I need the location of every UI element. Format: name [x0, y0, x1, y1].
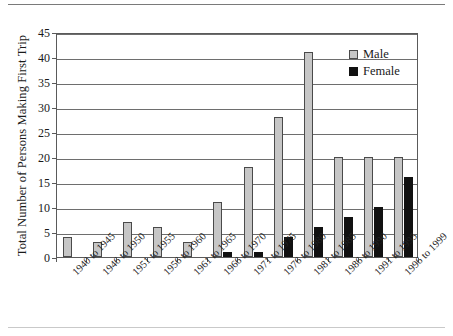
bar-female: [223, 252, 232, 257]
y-tick-label: 0: [20, 252, 50, 264]
bar-male: [63, 237, 72, 257]
x-tick-mark: [56, 258, 57, 262]
y-tick-label: 25: [20, 127, 50, 139]
x-category-label: 1951 to 1955: [131, 270, 139, 278]
bar-male: [304, 52, 313, 257]
bar-group: [178, 34, 208, 257]
bar-group: [238, 34, 268, 257]
bar-group: [87, 34, 117, 257]
x-category-label: 1940 to 1945: [70, 270, 78, 278]
y-tick-label: 30: [20, 102, 50, 114]
bar-chart-figure: Total Number of Persons Making First Tri…: [0, 8, 453, 326]
x-category-label: 1996 to 1999: [402, 270, 410, 278]
bar-male: [274, 117, 283, 257]
y-tick-label: 20: [20, 152, 50, 164]
bar-group: [57, 34, 87, 257]
y-tick-label: 10: [20, 202, 50, 214]
x-category-label: 1961 to 1965: [191, 270, 199, 278]
page-rule-bottom: [8, 327, 445, 328]
y-tick-label: 15: [20, 177, 50, 189]
x-category-label: 1946 to 1950: [100, 270, 108, 278]
bar-group: [298, 34, 328, 257]
y-tick-label: 40: [20, 52, 50, 64]
y-tick-label: 45: [20, 27, 50, 39]
legend-item-female: Female: [349, 63, 415, 80]
bar-group: [268, 34, 298, 257]
x-category-label: 1966 to 1970: [221, 270, 229, 278]
y-tick-label: 35: [20, 77, 50, 89]
x-category-label: 1976 to 1980: [281, 270, 289, 278]
legend-item-male: Male: [349, 46, 415, 63]
x-category-label: 1986 to 1990: [342, 270, 350, 278]
legend-label-male: Male: [363, 48, 389, 61]
legend-swatch-male-icon: [349, 50, 358, 59]
x-category-label: 1956 to 1960: [161, 270, 169, 278]
bar-group: [148, 34, 178, 257]
x-category-label: 1971 to 1975: [251, 270, 259, 278]
x-category-label: 1981 to 1985: [312, 270, 320, 278]
legend-swatch-female-icon: [349, 67, 358, 76]
x-category-label: 1991 to 1995: [372, 270, 380, 278]
y-tick-label: 5: [20, 227, 50, 239]
bar-female: [254, 252, 263, 257]
page-rule-top: [8, 4, 445, 5]
bar-group: [117, 34, 147, 257]
bar-group: [208, 34, 238, 257]
legend-label-female: Female: [363, 65, 400, 78]
chart-legend: Male Female: [349, 46, 415, 80]
